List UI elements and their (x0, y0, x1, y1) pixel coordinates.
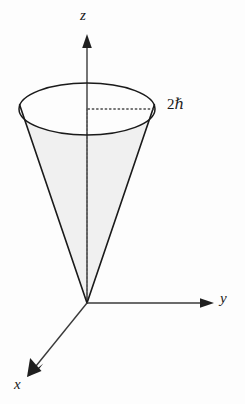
cone-diagram-figure: z y x 2ℏ (0, 0, 245, 404)
z-axis-label: z (80, 8, 86, 23)
x-axis-line (36, 303, 87, 366)
z-axis-arrow-icon (82, 34, 92, 48)
y-axis-label: y (220, 291, 227, 306)
x-axis-label: x (14, 377, 21, 392)
cone-diagram-canvas (0, 0, 245, 404)
y-axis-arrow-icon (200, 298, 214, 308)
cone-radius-label: 2ℏ (167, 97, 184, 112)
